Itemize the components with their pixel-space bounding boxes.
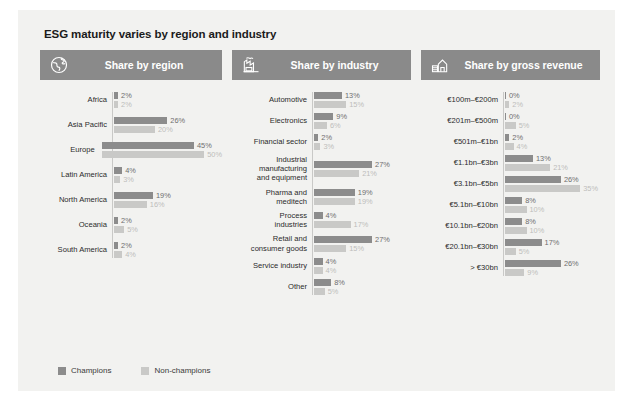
revenue-building-icon	[429, 54, 451, 76]
bar-row: Process industries4%17%	[232, 211, 411, 229]
bar-rect	[505, 113, 506, 120]
bar-rect	[114, 101, 118, 108]
bar-value-label: 5%	[519, 121, 530, 130]
bar-row-label: €10.1bn–€20bn	[421, 221, 503, 230]
bar-rect	[114, 117, 167, 124]
bar-value-label: 45%	[197, 141, 212, 150]
bar-rect	[314, 143, 320, 150]
bar-rect	[314, 101, 346, 108]
bar-value-label: 2%	[121, 241, 132, 250]
page-title: ESG maturity varies by region and indust…	[44, 28, 276, 40]
bar-group: 4%17%	[312, 212, 411, 228]
panel-header-region[interactable]: Share by region	[40, 50, 222, 80]
bar-value-label: 4%	[326, 266, 337, 275]
bar-champions: 17%	[505, 239, 600, 246]
bar-value-label: 6%	[330, 121, 341, 130]
panel-share-by-region: Share by region Africa2%2%Asia Pacific26…	[40, 50, 222, 300]
bar-value-label: 10%	[530, 226, 545, 235]
bar-value-label: 13%	[536, 154, 551, 163]
bar-rect	[505, 176, 561, 183]
bar-rect	[314, 236, 372, 243]
bar-non-champions: 9%	[505, 269, 600, 276]
bar-non-champions: 4%	[314, 267, 411, 274]
bar-value-label: 0%	[509, 112, 520, 121]
bar-row: €201m–€500m0%5%	[421, 113, 600, 129]
bar-rect	[314, 245, 346, 252]
bar-non-champions: 21%	[505, 164, 600, 171]
bar-row-label: North America	[40, 195, 112, 204]
bar-rect	[102, 151, 205, 158]
bar-group: 13%15%	[312, 92, 411, 108]
bar-value-label: 19%	[358, 188, 373, 197]
bar-group: 0%2%	[503, 92, 600, 108]
bar-row: > €30bn26%9%	[421, 260, 600, 276]
bar-value-label: 0%	[509, 91, 520, 100]
bar-row-label: Asia Pacific	[40, 120, 112, 129]
bar-rect	[114, 242, 118, 249]
bar-rect	[314, 258, 323, 265]
bar-champions: 2%	[314, 134, 411, 141]
bar-rect	[505, 269, 524, 276]
bar-rect	[314, 221, 351, 228]
bar-row-label: €1.1bn–€3bn	[421, 158, 503, 167]
bar-value-label: 2%	[512, 133, 523, 142]
panel-header-revenue[interactable]: Share by gross revenue	[421, 50, 600, 80]
bar-group: 4%3%	[112, 167, 222, 183]
bar-value-label: 9%	[336, 112, 347, 121]
legend: Champions Non-champions	[58, 366, 211, 375]
bar-champions: 9%	[314, 113, 411, 120]
bar-group: 8%5%	[312, 279, 411, 295]
bar-value-label: 8%	[525, 196, 536, 205]
bar-rect	[505, 197, 522, 204]
bar-group: 2%2%	[112, 92, 222, 108]
bar-rect	[314, 122, 327, 129]
bar-row-label: Other	[232, 282, 312, 291]
bar-row: €100m–€200m0%2%	[421, 92, 600, 108]
bar-rect	[314, 288, 325, 295]
bar-row-label: Pharma and meditech	[232, 188, 312, 206]
bar-value-label: 2%	[512, 100, 523, 109]
bar-group: 13%21%	[503, 155, 600, 171]
bar-rect	[114, 192, 153, 199]
bar-row: Other8%5%	[232, 279, 411, 295]
chart-card: ESG maturity varies by region and indust…	[18, 10, 615, 391]
bar-row: Pharma and meditech19%19%	[232, 188, 411, 206]
bar-row-label: Automotive	[232, 95, 312, 104]
bar-rect	[505, 92, 506, 99]
bar-value-label: 5%	[328, 287, 339, 296]
bar-row: Europe45%50%	[40, 142, 222, 158]
bar-row-label: Process industries	[232, 211, 312, 229]
bar-group: 19%19%	[312, 189, 411, 205]
bar-non-champions: 19%	[314, 198, 411, 205]
bar-row-label: Retail and consumer goods	[232, 234, 312, 252]
bar-champions: 19%	[114, 192, 222, 199]
bar-rect	[505, 206, 527, 213]
bar-rows-revenue: €100m–€200m0%2%€201m–€500m0%5%€501m–€1bn…	[421, 92, 600, 276]
bar-group: 8%10%	[503, 197, 600, 213]
bar-group: 26%35%	[503, 176, 600, 192]
bar-group: 2%4%	[503, 134, 600, 150]
bar-champions: 8%	[505, 218, 600, 225]
bar-group: 8%10%	[503, 218, 600, 234]
bar-value-label: 8%	[525, 217, 536, 226]
bar-rect	[314, 189, 355, 196]
bar-group: 4%4%	[312, 258, 411, 274]
legend-item-non-champions: Non-champions	[141, 366, 210, 375]
bar-champions: 27%	[314, 236, 411, 243]
bar-row: Africa2%2%	[40, 92, 222, 108]
bar-non-champions: 4%	[114, 251, 222, 258]
panel-header-industry[interactable]: Share by industry	[232, 50, 411, 80]
bar-group: 26%20%	[112, 117, 222, 133]
bar-row: €3.1bn–€5bn26%35%	[421, 176, 600, 192]
bar-non-champions: 3%	[314, 143, 411, 150]
bar-value-label: 13%	[345, 91, 360, 100]
bar-group: 2%5%	[112, 217, 222, 233]
bar-non-champions: 50%	[102, 151, 222, 158]
bar-rect	[314, 161, 372, 168]
bar-champions: 13%	[314, 92, 411, 99]
legend-item-champions: Champions	[58, 366, 111, 375]
bar-row: Asia Pacific26%20%	[40, 117, 222, 133]
bar-value-label: 27%	[375, 235, 390, 244]
bar-value-label: 4%	[326, 257, 337, 266]
bar-value-label: 27%	[375, 160, 390, 169]
